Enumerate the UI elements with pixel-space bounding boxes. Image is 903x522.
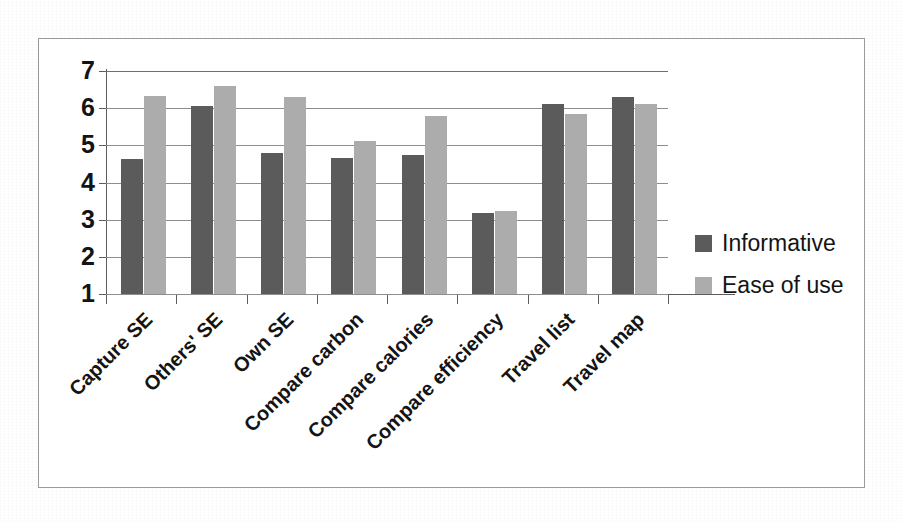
bar (261, 153, 283, 294)
y-axis-tick-label: 5 (55, 132, 95, 157)
y-axis-tick-label: 7 (55, 58, 95, 83)
x-axis-tick-mark (387, 295, 388, 304)
x-axis-tick-mark (176, 295, 177, 304)
legend-color-swatch (695, 235, 712, 252)
bar (425, 116, 447, 294)
x-axis-tick-mark (247, 295, 248, 304)
legend-label: Ease of use (722, 274, 843, 297)
x-axis-tick-mark (106, 295, 107, 304)
bar (354, 141, 376, 294)
y-axis-tick-label: 3 (55, 207, 95, 232)
y-axis-tick-label: 2 (55, 244, 95, 269)
x-axis-tick-mark (317, 295, 318, 304)
bar-group (247, 71, 317, 294)
gridline (106, 294, 668, 295)
bar (284, 97, 306, 294)
bar (612, 97, 634, 294)
x-axis-tick-mark (457, 295, 458, 304)
chart-frame: 1234567 Capture SEOthers' SEOwn SECompar… (38, 38, 865, 488)
bar-group (387, 71, 457, 294)
bar-group (598, 71, 668, 294)
plot-area (106, 71, 668, 294)
x-axis-category-label: Travel map (421, 308, 649, 522)
bar (565, 114, 587, 294)
chart-legend: InformativeEase of use (695, 222, 865, 306)
bar-group (457, 71, 527, 294)
bar-group (106, 71, 176, 294)
bar-group (176, 71, 246, 294)
x-axis-category-label: Compare calories (210, 308, 438, 522)
bar (472, 213, 494, 294)
legend-label: Informative (722, 232, 836, 255)
x-axis-category-label: Compare efficiency (280, 308, 508, 522)
legend-color-swatch (695, 277, 712, 294)
legend-item: Informative (695, 222, 865, 264)
bar (542, 104, 564, 294)
y-axis-tick-label: 6 (55, 95, 95, 120)
bar-group (528, 71, 598, 294)
x-axis-category-label: Own SE (69, 308, 297, 522)
y-axis-tick-labels: 1234567 (47, 39, 95, 489)
bar (402, 155, 424, 294)
bar (214, 86, 236, 294)
bar (331, 158, 353, 294)
bar-group (317, 71, 387, 294)
y-axis-tick-label: 1 (55, 281, 95, 306)
x-axis-category-label: Travel list (350, 308, 578, 522)
bar (191, 106, 213, 294)
x-axis-tick-mark (598, 295, 599, 304)
x-axis-tick-mark (668, 295, 669, 304)
x-axis-category-label: Others' SE (0, 308, 228, 522)
x-axis-tick-mark (528, 295, 529, 304)
bar (144, 96, 166, 294)
legend-item: Ease of use (695, 264, 865, 306)
y-axis-tick-label: 4 (55, 170, 95, 195)
bar (495, 211, 517, 294)
x-axis-category-label: Compare carbon (140, 308, 368, 522)
bar (635, 104, 657, 294)
bar (121, 159, 143, 294)
